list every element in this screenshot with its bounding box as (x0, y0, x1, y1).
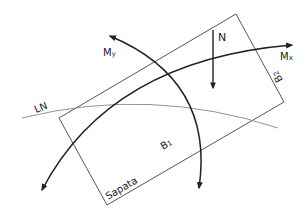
label-b1: B1 (159, 137, 174, 152)
label-mx: Mx (280, 51, 293, 62)
mx-moment-curve (42, 45, 292, 190)
label-n: N (218, 31, 226, 44)
neutral-line (22, 104, 278, 128)
footing-diagram: N Mx My LN B1 B2 Sapata (0, 0, 307, 212)
label-sapata: Sapata (104, 175, 140, 202)
footing-outline (59, 14, 284, 205)
my-moment-curve (110, 36, 201, 188)
label-b2: B2 (270, 69, 285, 84)
label-my: My (103, 47, 116, 58)
